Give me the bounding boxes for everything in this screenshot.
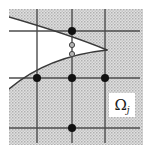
figure-canvas: Ωj xyxy=(0,0,152,155)
node-filled-mid-right xyxy=(101,74,109,82)
node-filled-bottom xyxy=(68,124,76,132)
omega-symbol: Ω xyxy=(114,98,126,113)
figure-svg xyxy=(0,0,152,155)
node-filled-mid-left xyxy=(33,74,41,82)
omega-subscript: j xyxy=(127,106,130,117)
omega-subdomain-label: Ωj xyxy=(109,93,135,117)
node-open-upper-crossing xyxy=(69,42,74,47)
node-open-lower-crossing xyxy=(69,51,74,56)
node-filled-top xyxy=(68,27,76,35)
node-filled-mid-center xyxy=(68,74,76,82)
domain-group xyxy=(9,9,143,145)
